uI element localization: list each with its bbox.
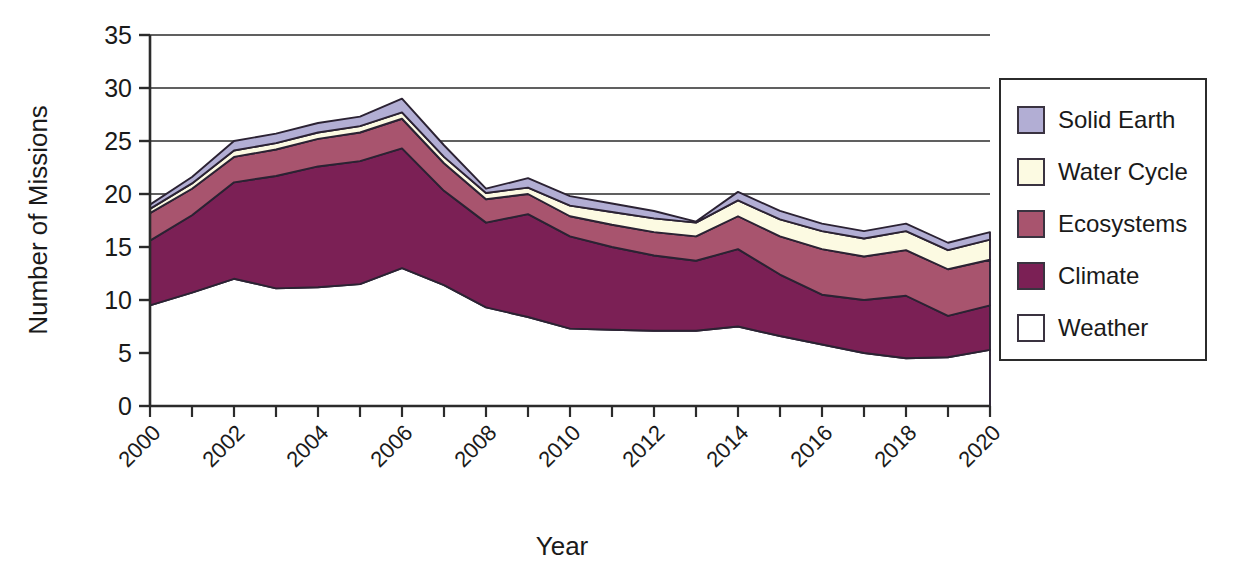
y-tick-label: 30 bbox=[104, 74, 132, 102]
x-tick-label: 2004 bbox=[281, 420, 333, 472]
legend-swatch bbox=[1017, 314, 1045, 342]
y-axis-ticks bbox=[139, 35, 150, 406]
legend-label: Climate bbox=[1058, 264, 1139, 288]
y-tick-label: 0 bbox=[118, 392, 132, 420]
x-tick-label: 2020 bbox=[953, 420, 1005, 472]
legend-label: Water Cycle bbox=[1058, 160, 1188, 184]
legend-item: Weather bbox=[1017, 302, 1205, 354]
x-tick-label: 2012 bbox=[617, 420, 669, 472]
legend-item: Solid Earth bbox=[1017, 94, 1205, 146]
stacked-area-chart-figure: 05101520253035 2000200220042006200820102… bbox=[0, 0, 1236, 588]
legend-item: Climate bbox=[1017, 250, 1205, 302]
y-axis-tick-labels: 05101520253035 bbox=[104, 21, 132, 420]
legend-label: Solid Earth bbox=[1058, 108, 1175, 132]
x-tick-label: 2018 bbox=[869, 420, 921, 472]
legend-label: Weather bbox=[1058, 316, 1148, 340]
legend-swatch bbox=[1017, 158, 1045, 186]
y-tick-label: 20 bbox=[104, 180, 132, 208]
y-tick-label: 15 bbox=[104, 233, 132, 261]
x-tick-label: 2016 bbox=[785, 420, 837, 472]
legend-label: Ecosystems bbox=[1058, 212, 1187, 236]
x-tick-label: 2008 bbox=[449, 420, 501, 472]
y-tick-label: 25 bbox=[104, 127, 132, 155]
x-tick-label: 2002 bbox=[197, 420, 249, 472]
legend-swatch bbox=[1017, 262, 1045, 290]
legend-swatch bbox=[1017, 210, 1045, 238]
x-axis-tick-labels: 2000200220042006200820102012201420162018… bbox=[113, 420, 1005, 472]
x-axis-ticks bbox=[150, 406, 990, 417]
x-axis-title: Year bbox=[536, 531, 589, 561]
y-tick-label: 10 bbox=[104, 286, 132, 314]
legend-swatch bbox=[1017, 106, 1045, 134]
x-tick-label: 2010 bbox=[533, 420, 585, 472]
chart-legend: Solid EarthWater CycleEcosystemsClimateW… bbox=[999, 78, 1207, 361]
legend-item: Ecosystems bbox=[1017, 198, 1205, 250]
legend-item: Water Cycle bbox=[1017, 146, 1205, 198]
area-bands bbox=[150, 99, 990, 406]
y-axis-title: Number of Missions bbox=[23, 105, 53, 335]
y-tick-label: 5 bbox=[118, 339, 132, 367]
x-tick-label: 2000 bbox=[113, 420, 165, 472]
y-tick-label: 35 bbox=[104, 21, 132, 49]
x-tick-label: 2006 bbox=[365, 420, 417, 472]
x-tick-label: 2014 bbox=[701, 420, 753, 472]
